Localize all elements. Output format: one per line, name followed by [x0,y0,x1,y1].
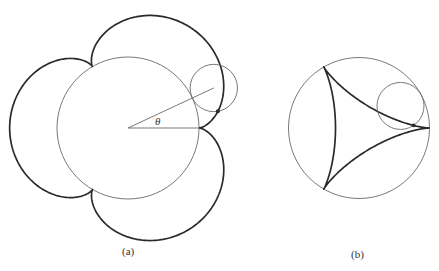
tracing-point-a [216,109,220,113]
figure-a-caption: (a) [122,245,135,258]
deltoid-curve [324,67,430,189]
figure-b-deltoid: (b) [289,58,430,262]
figure-b-caption: (b) [351,248,364,261]
theta-label: θ [155,115,161,127]
rolling-circle-b [377,82,424,129]
diagram-canvas: θ (a) (b) [0,0,439,271]
tracing-point-b [412,124,416,128]
figure-a-epicycloid: θ (a) [10,15,238,258]
